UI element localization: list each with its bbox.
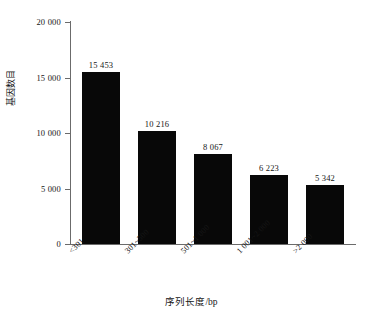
- x-axis-title: 序列长度/bp: [0, 297, 383, 308]
- bar-chart: 05 00010 00015 00020 000 15 45310 2168 0…: [0, 0, 383, 326]
- y-tick-label: 10 000: [36, 129, 61, 138]
- y-tick-label: 20 000: [36, 18, 61, 27]
- plot-area: 15 45310 2168 0676 2235 342: [71, 22, 355, 244]
- y-tick-label: 15 000: [36, 74, 61, 83]
- x-axis-line: [70, 244, 356, 245]
- bar-value-label: 8 067: [183, 143, 243, 152]
- bar-value-label: 6 223: [239, 164, 299, 173]
- bar[interactable]: [82, 72, 120, 244]
- y-tick-label: 0: [57, 240, 61, 249]
- bar-value-label: 15 453: [71, 61, 131, 70]
- bar-value-label: 10 216: [127, 120, 187, 129]
- y-axis-title: 基因数目: [6, 70, 17, 106]
- bar-value-label: 5 342: [295, 174, 355, 183]
- y-tick-label: 5 000: [41, 185, 61, 194]
